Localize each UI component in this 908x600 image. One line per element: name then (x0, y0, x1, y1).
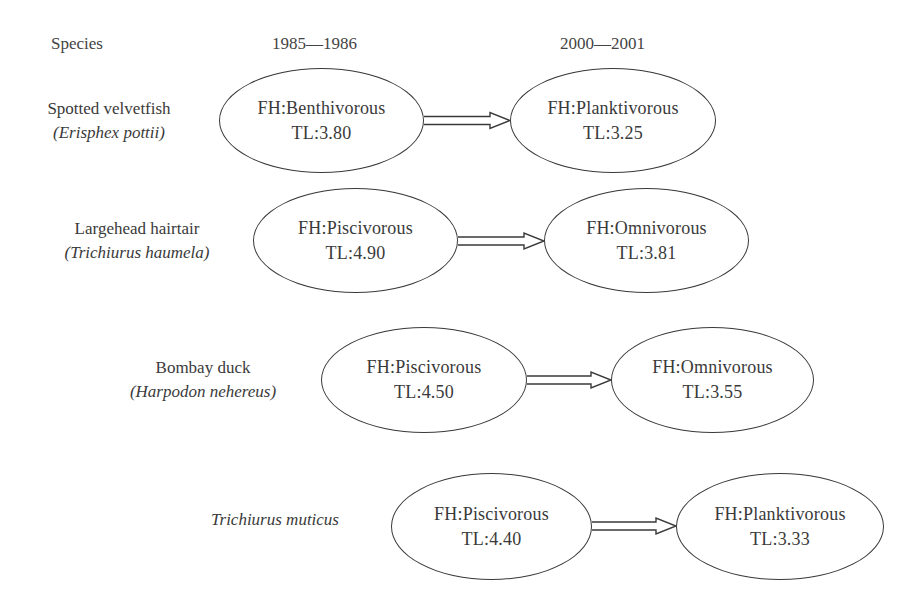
species-scientific-name: (Erisphex pottii) (47, 121, 170, 145)
ellipse-after-trichiurus-muticus: FH:Planktivorous TL:3.33 (676, 473, 884, 580)
ellipse-after-spotted-velvetfish: FH:Planktivorous TL:3.25 (510, 68, 716, 173)
trophic-level: TL:3.80 (292, 121, 352, 146)
ellipse-before-spotted-velvetfish: FH:Benthivorous TL:3.80 (219, 68, 424, 173)
arrow-icon-row-2 (458, 233, 544, 249)
trophic-level: TL:4.50 (394, 380, 454, 405)
feeding-habit: FH:Piscivorous (434, 502, 549, 527)
species-common-name: Bombay duck (130, 356, 276, 380)
species-label-largehead-hairtair: Largehead hairtair (Trichiurus haumela) (65, 217, 210, 265)
feeding-habit: FH:Piscivorous (298, 216, 413, 241)
species-common-name: Largehead hairtair (65, 217, 210, 241)
ellipse-before-bombay-duck: FH:Piscivorous TL:4.50 (321, 327, 527, 433)
trophic-level: TL:4.40 (462, 527, 522, 552)
trophic-level: TL:4.90 (326, 241, 386, 266)
species-label-spotted-velvetfish: Spotted velvetfish (Erisphex pottii) (47, 97, 170, 145)
feeding-habit: FH:Benthivorous (257, 96, 385, 121)
arrow-icon-row-1 (424, 113, 510, 129)
trophic-level: TL:3.25 (583, 121, 643, 146)
species-scientific-name: (Harpodon nehereus) (130, 380, 276, 404)
species-label-bombay-duck: Bombay duck (Harpodon nehereus) (130, 356, 276, 404)
feeding-habit: FH:Omnivorous (586, 216, 707, 241)
trophic-level: TL:3.33 (750, 527, 810, 552)
trophic-level: TL:3.55 (683, 380, 743, 405)
ellipse-after-largehead-hairtair: FH:Omnivorous TL:3.81 (544, 188, 749, 293)
species-common-name: Spotted velvetfish (47, 97, 170, 121)
species-scientific-name: Trichiurus muticus (211, 508, 339, 532)
species-label-trichiurus-muticus: Trichiurus muticus (211, 508, 339, 532)
arrow-icon-row-3 (527, 372, 611, 388)
feeding-habit: FH:Piscivorous (367, 355, 482, 380)
ellipse-before-trichiurus-muticus: FH:Piscivorous TL:4.40 (391, 473, 592, 580)
species-scientific-name: (Trichiurus haumela) (65, 241, 210, 265)
ellipse-after-bombay-duck: FH:Omnivorous TL:3.55 (611, 327, 814, 433)
feeding-habit: FH:Planktivorous (547, 96, 678, 121)
arrow-icon-row-4 (592, 518, 676, 534)
feeding-habit: FH:Omnivorous (652, 355, 773, 380)
trophic-level: TL:3.81 (617, 241, 677, 266)
ellipse-before-largehead-hairtair: FH:Piscivorous TL:4.90 (253, 188, 458, 293)
feeding-habit: FH:Planktivorous (714, 502, 845, 527)
